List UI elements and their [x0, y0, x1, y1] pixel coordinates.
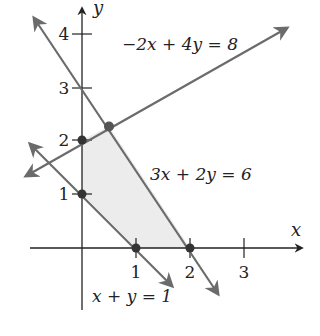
feasible-region-diagram: 1 2 3 1 2 3 4 x y −2x + 4y = 8 3x + 2y =… [0, 0, 320, 336]
equation-label: x + y = 1 [92, 286, 172, 306]
y-tick-label: 2 [59, 130, 70, 150]
x-axis-label: x [291, 219, 301, 240]
y-tick-label: 4 [59, 24, 70, 44]
vertex-point [78, 136, 87, 145]
vertex-point [104, 122, 114, 132]
equation-label: 3x + 2y = 6 [150, 164, 252, 184]
vertex-point [132, 244, 141, 253]
y-tick-label: 3 [59, 78, 70, 98]
y-tick-label: 1 [59, 184, 70, 204]
x-tick-label: 1 [131, 262, 142, 282]
x-tick-label: 2 [185, 262, 196, 282]
x-tick-label: 3 [239, 262, 250, 282]
feasible-region [82, 127, 190, 249]
vertex-point [78, 190, 87, 199]
equation-label: −2x + 4y = 8 [122, 34, 238, 54]
y-axis-label: y [92, 0, 104, 18]
vertex-point [186, 244, 195, 253]
